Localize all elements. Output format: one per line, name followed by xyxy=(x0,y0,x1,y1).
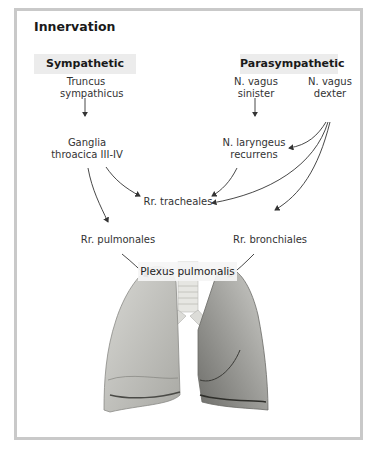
node-label: throacica III-IV xyxy=(50,149,124,161)
node-rr-bronchiales: Rr. bronchiales xyxy=(230,234,310,246)
node-label: dexter xyxy=(306,88,354,100)
node-vagus-dexter: N. vagus dexter xyxy=(306,76,354,100)
node-label: Truncus xyxy=(60,76,112,88)
node-rr-pulmonales: Rr. pulmonales xyxy=(78,234,158,246)
node-label: N. laryngeus xyxy=(222,137,286,149)
node-truncus-sympathicus: Truncus sympathicus xyxy=(60,76,112,100)
node-label: N. vagus xyxy=(306,76,354,88)
node-laryngeus-recurrens: N. laryngeus recurrens xyxy=(222,137,286,161)
lung-illustration xyxy=(0,0,372,451)
node-label: Ganglia xyxy=(50,137,124,149)
node-label: N. vagus xyxy=(232,76,280,88)
node-rr-tracheales: Rr. tracheales xyxy=(142,196,214,208)
node-vagus-sinister: N. vagus sinister xyxy=(232,76,280,100)
node-label: sympathicus xyxy=(60,88,112,100)
node-plexus-pulmonalis: Plexus pulmonalis xyxy=(138,262,237,281)
right-lung-icon xyxy=(104,267,180,412)
left-lung-icon xyxy=(198,268,268,410)
node-label: recurrens xyxy=(222,149,286,161)
arrows xyxy=(85,98,330,277)
node-ganglia-thoracica: Ganglia throacica III-IV xyxy=(50,137,124,161)
node-label: sinister xyxy=(232,88,280,100)
